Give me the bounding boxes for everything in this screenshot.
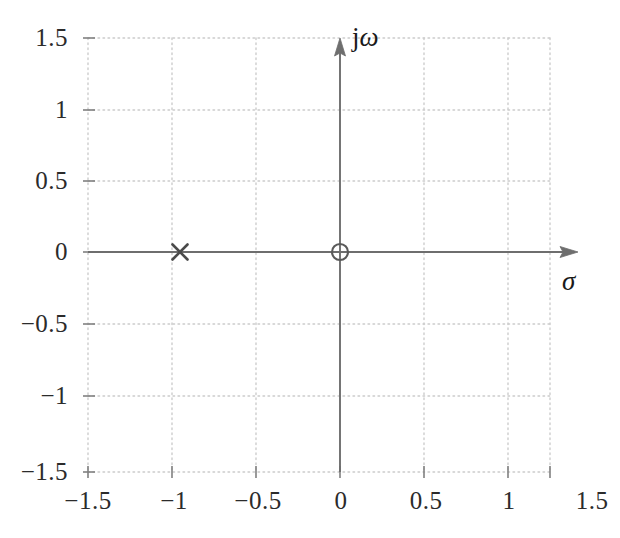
y-axis-tick-marks <box>83 38 95 472</box>
imaginary-axis-jomega <box>335 38 346 472</box>
x-tick-label-0: 0 <box>335 487 348 515</box>
x-tick-label--0.5: −0.5 <box>234 487 281 515</box>
x-tick-label-1.5: 1.5 <box>576 487 609 515</box>
grid-horizontal-lines <box>88 38 550 472</box>
x-tick-label--1: −1 <box>160 487 188 515</box>
y-tick-label--1.5: −1.5 <box>0 458 68 486</box>
plot-canvas <box>0 0 620 538</box>
real-axis-arrowhead-icon <box>560 247 578 258</box>
x-tick-label-0.5: 0.5 <box>410 487 443 515</box>
y-tick-label-1: 1 <box>0 96 68 124</box>
y-tick-label-0.5: 0.5 <box>0 167 68 195</box>
y-tick-label-0: 0 <box>0 238 68 266</box>
y-axis-title-jomega: jω <box>352 22 379 53</box>
y-axis-title-omega: ω <box>360 22 379 52</box>
imaginary-axis-arrowhead-icon <box>335 38 346 56</box>
y-tick-label--1: −1 <box>0 382 68 410</box>
y-tick-label-1.5: 1.5 <box>0 24 68 52</box>
grid-vertical-lines <box>88 38 550 472</box>
x-axis-title-sigma: σ <box>562 266 575 297</box>
y-axis-title-j: j <box>352 22 360 52</box>
pole-zero-plot: 1.5 1 0.5 0 −0.5 −1 −1.5 −1.5 −1 −0.5 0 … <box>0 0 620 538</box>
x-tick-label-1: 1 <box>503 487 516 515</box>
x-tick-label--1.5: −1.5 <box>64 487 111 515</box>
y-tick-label--0.5: −0.5 <box>0 310 68 338</box>
